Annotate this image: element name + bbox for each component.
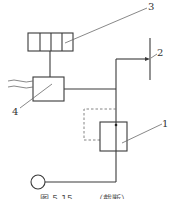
label-3: 3 [148,1,154,12]
source-circle [31,175,45,189]
schematic-diagram: 3 4 2 1 [0,0,170,199]
component-3-block [28,33,73,51]
arrow-head-icon [145,57,150,61]
leader-line-1 [122,124,162,143]
label-2: 2 [157,47,163,58]
label-1: 1 [162,118,168,129]
input-wave-1 [8,80,33,82]
label-4: 4 [12,106,18,117]
figure-caption: 图 5-15 ……（截断） [0,192,170,199]
junction-dot [115,124,118,127]
leader-line-3 [65,8,147,43]
component-1-box [100,122,127,151]
input-wave-2 [8,86,33,88]
component-4-box [33,77,64,101]
